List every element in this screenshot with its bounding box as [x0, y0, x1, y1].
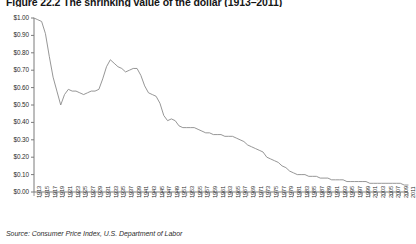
x-axis-tick-label: 1913	[36, 186, 42, 198]
x-axis-tick-label: 1933	[113, 186, 119, 198]
x-axis-tick-label: 1955	[197, 186, 203, 198]
x-axis-tick-label: 1999	[365, 186, 371, 198]
x-axis-tick-label: 1965	[235, 186, 241, 198]
y-axis-tick-label: $0.70	[2, 66, 29, 73]
plot-area: $1.00$0.90$0.80$0.70$0.60$0.50$0.40$0.30…	[0, 10, 414, 226]
y-axis-tick-label: $0.50	[2, 101, 29, 108]
x-axis-tick-label: 1949	[174, 186, 180, 198]
y-axis-tick-label: $0.20	[2, 153, 29, 160]
x-axis-tick-label: 1935	[120, 186, 126, 198]
x-axis-tick-label: 1985	[311, 186, 317, 198]
x-axis-tick-label: 1967	[242, 186, 248, 198]
x-axis-tick-label: 1945	[159, 186, 165, 198]
data-series-line	[34, 18, 408, 185]
x-axis-tick-label: 1957	[204, 186, 210, 198]
x-axis-tick-label: 1975	[273, 186, 279, 198]
source-note: Source: Consumer Price Index, U.S. Depar…	[6, 230, 182, 237]
y-axis-tick-label: $0.80	[2, 49, 29, 56]
x-axis-tick-label: 1929	[97, 186, 103, 198]
x-axis-tick-label: 1961	[220, 186, 226, 198]
x-axis-tick-label: 1991	[334, 186, 340, 198]
x-axis-tick-label: 1937	[128, 186, 134, 198]
x-axis-tick-label: 1943	[151, 186, 157, 198]
x-axis-tick-label: 1983	[304, 186, 310, 198]
y-axis-tick-label: $0.00	[2, 188, 29, 195]
x-axis-tick-label: 1915	[44, 186, 50, 198]
x-axis-tick-label: 1987	[319, 186, 325, 198]
x-axis-tick-label: 1923	[75, 186, 81, 198]
x-axis-tick-label: 2009	[403, 186, 409, 198]
x-axis-tick-label: 1931	[105, 186, 111, 198]
x-axis-tick-label: 2011	[410, 186, 416, 198]
x-axis-tick-label: 1921	[67, 186, 73, 198]
x-axis-tick-label: 2007	[395, 186, 401, 198]
x-axis-tick-label: 1997	[357, 186, 363, 198]
x-axis-tick-label: 2005	[388, 186, 394, 198]
x-axis-tick-label: 1981	[296, 186, 302, 198]
x-axis-tick-label: 1971	[258, 186, 264, 198]
y-axis-tick-label: $0.60	[2, 84, 29, 91]
x-axis-tick-label: 1979	[288, 186, 294, 198]
y-axis-tick-label: $0.90	[2, 31, 29, 38]
x-axis-tick-label: 1927	[90, 186, 96, 198]
x-axis-tick-label: 1973	[265, 186, 271, 198]
y-axis-tick-label: $0.30	[2, 136, 29, 143]
x-axis-tick-label: 1977	[281, 186, 287, 198]
x-axis-tick-label: 1941	[143, 186, 149, 198]
x-axis-tick-label: 1947	[166, 186, 172, 198]
figure-title: Figure 22.2 The shrinking value of the d…	[6, 0, 406, 7]
x-axis-tick-label: 1959	[212, 186, 218, 198]
x-axis-tick-label: 1925	[82, 186, 88, 198]
y-axis-tick-label: $1.00	[2, 14, 29, 21]
x-axis-tick-label: 1919	[59, 186, 65, 198]
x-axis-tick-label: 1963	[227, 186, 233, 198]
x-axis-tick-label: 1951	[181, 186, 187, 198]
x-axis-tick-label: 1993	[342, 186, 348, 198]
x-axis-tick-label: 2003	[380, 186, 386, 198]
x-axis-tick-label: 1953	[189, 186, 195, 198]
y-axis-tick-label: $0.40	[2, 118, 29, 125]
x-axis-tick-label: 1995	[349, 186, 355, 198]
x-axis-tick-label: 1917	[52, 186, 58, 198]
x-axis-tick-label: 2001	[372, 186, 378, 198]
x-axis-tick-label: 1939	[136, 186, 142, 198]
x-axis-tick-label: 1969	[250, 186, 256, 198]
y-axis-tick-label: $0.10	[2, 171, 29, 178]
x-axis-tick-label: 1989	[326, 186, 332, 198]
